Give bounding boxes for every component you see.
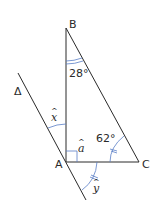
hat-icon: ^ [93, 178, 99, 186]
line-delta-label: Δ [14, 86, 22, 97]
point-b-label: B [69, 19, 77, 30]
hat-icon: ^ [51, 107, 57, 115]
right-angle-marker [66, 151, 77, 162]
angle-a-label: ^ a [78, 143, 85, 154]
angle-x-arc [48, 124, 66, 128]
hat-icon: ^ [78, 138, 85, 146]
angle-b-arc-1 [66, 58, 82, 61]
angle-c-value: 62° [96, 133, 116, 144]
line-delta [18, 73, 86, 200]
point-a-label: A [55, 159, 63, 170]
angle-b-arc-2 [66, 61, 83, 64]
angle-y-label: ^ y [93, 183, 99, 194]
point-c-label: C [142, 159, 150, 170]
geometry-figure [0, 0, 159, 205]
angle-b-value: 28° [69, 68, 89, 79]
angle-x-label: ^ x [51, 112, 57, 123]
angle-c-tick-1 [110, 149, 117, 151]
